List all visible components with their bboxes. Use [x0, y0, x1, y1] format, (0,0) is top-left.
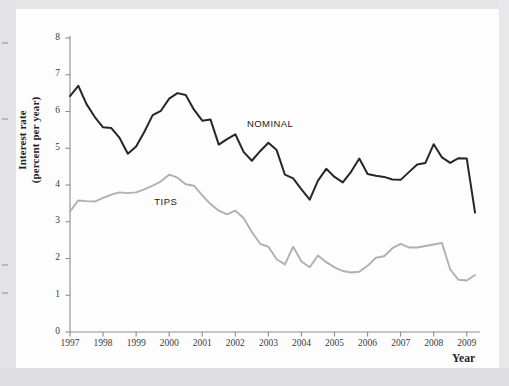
x-axis-title: Year: [452, 352, 475, 364]
x-tick-label: 2006: [351, 338, 385, 348]
x-tick-label: 2003: [251, 338, 285, 348]
plot-area: [0, 0, 509, 386]
y-tick-label: 8: [44, 32, 60, 42]
x-tick-label: 2008: [417, 338, 451, 348]
x-tick-label: 1999: [119, 338, 153, 348]
x-tick-label: 2007: [384, 338, 418, 348]
figure-page: Interest rate (percent per year) Year 01…: [0, 0, 509, 386]
x-tick-label: 2009: [450, 338, 484, 348]
x-tick-label: 2005: [318, 338, 352, 348]
y-tick-label: 4: [44, 179, 60, 189]
y-tick-label: 1: [44, 289, 60, 299]
y-tick-label: 7: [44, 68, 60, 78]
series-line-tips: [70, 175, 475, 281]
y-tick-label: 2: [44, 252, 60, 262]
y-tick-label: 5: [44, 142, 60, 152]
series-label-nominal: NOMINAL: [247, 118, 293, 129]
x-tick-label: 1997: [53, 338, 87, 348]
line-chart: Interest rate (percent per year) Year 01…: [0, 0, 509, 386]
x-tick-label: 1998: [86, 338, 120, 348]
series-label-tips: TIPS: [154, 196, 177, 207]
x-tick-label: 2002: [218, 338, 252, 348]
y-tick-label: 6: [44, 105, 60, 115]
x-tick-label: 2001: [185, 338, 219, 348]
y-tick-label: 0: [44, 326, 60, 336]
x-tick-label: 2004: [284, 338, 318, 348]
x-tick-label: 2000: [152, 338, 186, 348]
y-tick-label: 3: [44, 215, 60, 225]
